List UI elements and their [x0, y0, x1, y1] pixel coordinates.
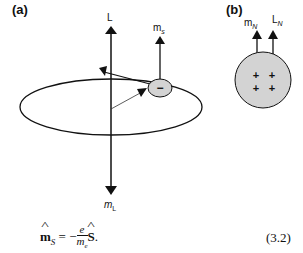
- svg-text:+: +: [253, 69, 259, 81]
- label-L: L: [107, 12, 113, 23]
- label-L-N: LN: [272, 14, 283, 27]
- m-hat: m: [40, 229, 51, 245]
- label-m-L: mL: [104, 199, 116, 212]
- nucleus: + + + +: [235, 52, 291, 108]
- equation-number: (3.2): [266, 230, 291, 246]
- fraction: eme: [77, 224, 88, 252]
- equation: mS = −emeS.: [40, 224, 98, 252]
- label-m-s: ms: [153, 22, 165, 35]
- label-m-N: mN: [244, 17, 257, 30]
- precession-arrow: [99, 66, 150, 84]
- electron: −: [148, 79, 172, 97]
- orbital-magnetic-moment-arrow: [105, 107, 117, 195]
- panel-label-b: (b): [226, 2, 243, 17]
- atomic-moment-diagram: − + + + +: [0, 0, 303, 253]
- panel-label-a: (a): [12, 2, 28, 17]
- svg-text:+: +: [253, 82, 259, 94]
- s-hat: S: [88, 229, 95, 245]
- electron-charge: −: [156, 81, 163, 95]
- radius-arrow: [111, 88, 147, 109]
- spin-magnetic-moment-arrow: [155, 36, 165, 80]
- svg-text:+: +: [269, 69, 275, 81]
- svg-text:+: +: [269, 82, 275, 94]
